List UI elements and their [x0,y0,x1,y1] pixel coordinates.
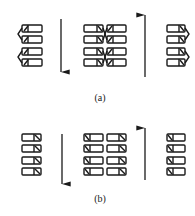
panel-a [18,15,189,77]
panel-a-label: (a) [80,92,120,103]
panel-b-column-3 [107,134,126,175]
dipole-domain-diagram [0,0,195,216]
panel-b-column-2 [84,134,103,175]
panel-b-label: (b) [80,193,120,204]
panel-b-column-1 [22,134,41,175]
panel-a-column-2 [84,25,103,66]
panel-a-column-3 [103,25,126,66]
panel-a-column-4 [167,25,189,66]
panel-a-column-1 [18,25,42,66]
panel-b [22,128,185,184]
panel-b-column-4 [167,134,185,175]
